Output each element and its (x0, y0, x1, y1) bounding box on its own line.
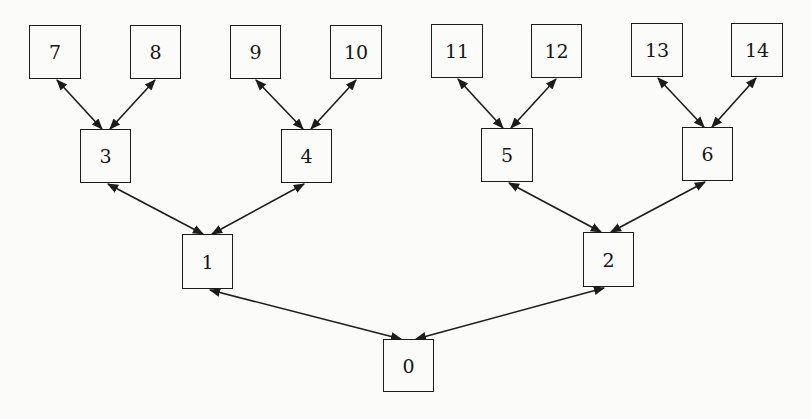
edge-1-4 (212, 184, 304, 234)
node-label: 13 (645, 39, 669, 61)
edge-3-7 (57, 80, 102, 129)
edge-2-6 (611, 182, 705, 232)
node-label: 11 (445, 40, 469, 62)
node-label: 7 (49, 41, 61, 63)
edge-4-9 (256, 80, 303, 129)
edge-5-11 (458, 79, 503, 128)
edge-0-2 (416, 288, 604, 339)
edge-6-13 (658, 78, 704, 127)
node-label: 1 (201, 251, 213, 273)
node-label: 8 (149, 41, 161, 63)
tree-node-6: 6 (682, 127, 733, 181)
tree-node-3: 3 (80, 129, 131, 183)
tree-node-2: 2 (583, 232, 634, 287)
edge-5-12 (511, 79, 556, 128)
node-label: 12 (544, 40, 568, 62)
node-label: 3 (99, 145, 111, 167)
edge-0-1 (210, 290, 401, 339)
node-label: 2 (602, 249, 614, 271)
edge-6-14 (712, 78, 756, 127)
tree-node-11: 11 (431, 24, 483, 78)
node-label: 10 (344, 41, 368, 63)
tree-node-10: 10 (330, 25, 382, 79)
edge-2-5 (509, 183, 601, 232)
edge-4-10 (311, 80, 356, 129)
tree-node-1: 1 (182, 234, 233, 289)
tree-node-12: 12 (531, 24, 582, 78)
node-label: 0 (402, 355, 414, 377)
node-label: 4 (300, 145, 312, 167)
tree-node-14: 14 (731, 23, 783, 77)
node-label: 14 (745, 39, 769, 61)
tree-node-8: 8 (130, 25, 181, 79)
tree-node-0: 0 (383, 339, 434, 392)
tree-node-4: 4 (281, 129, 332, 183)
node-label: 9 (249, 41, 261, 63)
tree-node-7: 7 (29, 25, 81, 79)
tree-node-13: 13 (631, 23, 683, 77)
tree-node-9: 9 (230, 25, 281, 79)
edge-1-3 (108, 184, 203, 234)
node-label: 5 (501, 144, 513, 166)
tree-node-5: 5 (481, 128, 533, 182)
node-label: 6 (701, 143, 713, 165)
edge-3-8 (110, 80, 155, 129)
